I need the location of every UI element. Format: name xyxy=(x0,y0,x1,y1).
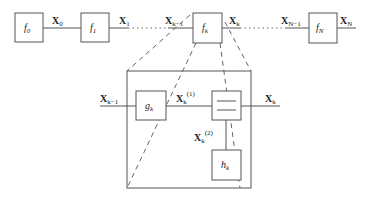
signal-x0: X0 xyxy=(52,15,63,28)
block-f0: f0 xyxy=(15,13,43,42)
signal-xN-1: XN−1 xyxy=(281,15,301,28)
zoom-line-top-right xyxy=(225,22,251,71)
signal-x1: X1 xyxy=(119,15,130,28)
zoom-line-top-left xyxy=(127,15,190,71)
signal-xk: Xk xyxy=(229,15,240,28)
signal-xk-1: Xk−1 xyxy=(165,15,184,28)
detail-mid-label: Xk(1) xyxy=(176,90,196,106)
block-fN: fN xyxy=(309,13,337,43)
block-f1: f1 xyxy=(81,13,109,42)
block-fk: fk xyxy=(193,13,222,43)
signal-xN: XN xyxy=(340,15,352,28)
block-diagram: f0 f1 fk fN X0 X1 Xk−1 Xk XN−1 XN gk hk … xyxy=(0,0,369,199)
block-gk: gk xyxy=(136,91,166,120)
detail-input-label: Xk−1 xyxy=(100,93,119,106)
detail-output-label: Xk xyxy=(265,93,276,106)
block-hk: hk xyxy=(212,150,241,180)
block-split xyxy=(212,91,241,120)
detail-branch-label: Xk(2) xyxy=(194,129,214,145)
